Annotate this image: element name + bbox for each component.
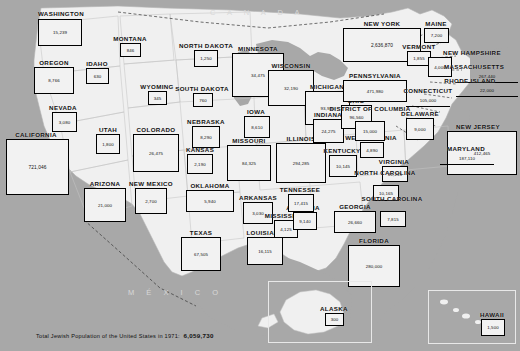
wisconsin-value: 32,190 bbox=[284, 86, 298, 91]
montana-value-box: 846 bbox=[120, 43, 141, 57]
california-label: CALIFORNIA bbox=[15, 131, 57, 138]
district-of-columbia-value-box: 15,000 bbox=[355, 121, 385, 141]
maryland-label: MARYLAND bbox=[447, 145, 485, 152]
west-virginia-value-box: 4,890 bbox=[360, 142, 384, 158]
louisiana-value: 16,115 bbox=[258, 249, 272, 254]
iowa-value: 8,610 bbox=[251, 125, 263, 130]
north-carolina-label-line1: NORTH CAROLINA bbox=[354, 170, 415, 177]
florida-label: FLORIDA bbox=[359, 237, 389, 244]
vermont-value: 1,855 bbox=[413, 56, 425, 61]
alabama-value: 9,140 bbox=[299, 219, 311, 224]
caption-prefix: Total Jewish Population of the United St… bbox=[36, 333, 180, 339]
jewish-population-map: C A N A D A M É X I C O WASHINGTON 15,23… bbox=[0, 0, 520, 351]
alaska-label: ALASKA bbox=[320, 305, 348, 312]
canada-label: C A N A D A bbox=[210, 8, 305, 17]
south-dakota-value: 760 bbox=[199, 98, 207, 103]
connecticut-label: CONNECTICUT bbox=[404, 87, 453, 94]
nebraska-label: NEBRASKA bbox=[187, 118, 225, 125]
georgia-value: 26,660 bbox=[348, 220, 362, 225]
colorado-value: 26,475 bbox=[149, 151, 163, 156]
south-carolina-value: 7,815 bbox=[387, 217, 399, 222]
arkansas-value: 3,030 bbox=[252, 211, 264, 216]
washington-value: 15,239 bbox=[53, 30, 67, 35]
mississippi-value: 4,125 bbox=[280, 227, 292, 232]
mexico-label: M É X I C O bbox=[128, 288, 223, 297]
tennessee-value-box: 17,415 bbox=[288, 194, 314, 212]
connecticut-value-box: 105,000 bbox=[406, 95, 450, 107]
district-of-columbia-label: DISTRICT OF COLUMBIA bbox=[330, 106, 411, 113]
alabama-value-box: 9,140 bbox=[293, 212, 317, 230]
south-carolina-label: SOUTH CAROLINA bbox=[362, 196, 423, 203]
virginia-label: VIRGINIA bbox=[379, 158, 409, 165]
missouri-value-box: 84,325 bbox=[227, 145, 271, 181]
new-mexico-label: NEW MEXICO bbox=[129, 180, 173, 187]
nebraska-value: 8,290 bbox=[200, 135, 212, 140]
massachusetts-label: MASSACHUSETTS bbox=[444, 63, 504, 70]
alaska-value: 300 bbox=[331, 317, 339, 322]
washington-label: WASHINGTON bbox=[38, 10, 84, 17]
idaho-value-box: 630 bbox=[86, 68, 109, 84]
florida-value: 280,000 bbox=[366, 264, 383, 269]
south-carolina-value-box: 7,815 bbox=[380, 211, 406, 227]
south-dakota-value-box: 760 bbox=[193, 93, 213, 107]
utah-value: 1,800 bbox=[102, 142, 114, 147]
arizona-value-box: 21,000 bbox=[84, 188, 126, 222]
indiana-value: 24,275 bbox=[321, 129, 335, 134]
missouri-label: MISSOURI bbox=[232, 137, 265, 144]
indiana-value-box: 24,275 bbox=[313, 119, 344, 143]
hawaii-label: HAWAII bbox=[480, 311, 504, 318]
alaska-value-box: 300 bbox=[325, 313, 344, 326]
montana-label: MONTANA bbox=[113, 35, 147, 42]
oregon-value-box: 8,766 bbox=[34, 67, 74, 94]
new-hampshire-label: NEW HAMPSHIRE bbox=[443, 49, 501, 56]
illinois-value: 294,285 bbox=[293, 161, 310, 166]
kansas-value-box: 2,190 bbox=[187, 154, 213, 174]
arizona-value: 21,000 bbox=[98, 203, 112, 208]
minnesota-label: MINNESOTA bbox=[238, 45, 278, 52]
oregon-value: 8,766 bbox=[48, 78, 60, 83]
delaware-value: 9,000 bbox=[414, 127, 426, 132]
tennessee-label: TENNESSEE bbox=[280, 186, 321, 193]
oklahoma-value: 5,940 bbox=[204, 199, 216, 204]
colorado-label: COLORADO bbox=[137, 126, 176, 133]
north-dakota-value-box: 1,250 bbox=[194, 50, 218, 67]
tennessee-value: 17,415 bbox=[294, 201, 308, 206]
montana-value: 846 bbox=[127, 48, 135, 53]
wisconsin-label: WISCONSIN bbox=[272, 62, 311, 69]
wyoming-label: WYOMING bbox=[140, 83, 173, 90]
maine-label: MAINE bbox=[425, 20, 447, 27]
georgia-label: GEORGIA bbox=[339, 203, 371, 210]
nevada-label: NEVADA bbox=[49, 104, 77, 111]
wyoming-value: 345 bbox=[154, 96, 162, 101]
maryland-value: 187,110 bbox=[459, 156, 475, 161]
iowa-value-box: 8,610 bbox=[244, 116, 270, 138]
vermont-label: VERMONT bbox=[402, 43, 435, 50]
caption-total: 6,059,730 bbox=[183, 332, 213, 339]
new-york-label: NEW YORK bbox=[364, 20, 401, 27]
oklahoma-label: OKLAHOMA bbox=[190, 182, 229, 189]
iowa-label: IOWA bbox=[247, 108, 265, 115]
nevada-value-box: 3,080 bbox=[52, 112, 77, 132]
connecticut-value: 105,000 bbox=[420, 98, 437, 103]
new-york-value: 2,636,870 bbox=[371, 43, 393, 48]
maine-value: 7,200 bbox=[431, 33, 443, 38]
texas-value: 67,505 bbox=[194, 252, 208, 257]
kansas-value: 2,190 bbox=[194, 162, 206, 167]
oregon-label: OREGON bbox=[39, 59, 69, 66]
kansas-label: KANSAS bbox=[186, 146, 214, 153]
california-value-box: 721,046 bbox=[6, 139, 69, 195]
hawaii-value: 1,500 bbox=[487, 325, 499, 330]
georgia-value-box: 26,660 bbox=[334, 211, 376, 233]
arizona-label: ARIZONA bbox=[90, 180, 121, 187]
north-dakota-value: 1,250 bbox=[200, 56, 212, 61]
total-population-caption: Total Jewish Population of the United St… bbox=[36, 332, 214, 339]
kentucky-label: KENTUCKY bbox=[323, 147, 360, 154]
nebraska-value-box: 8,290 bbox=[192, 126, 220, 148]
new-mexico-value-box: 2,700 bbox=[135, 188, 167, 214]
illinois-value-box: 294,285 bbox=[276, 143, 326, 183]
pennsylvania-value: 471,980 bbox=[367, 89, 384, 94]
utah-label: UTAH bbox=[99, 126, 117, 133]
nevada-value: 3,080 bbox=[59, 120, 71, 125]
new-jersey-label: NEW JERSEY bbox=[456, 123, 500, 130]
idaho-value: 630 bbox=[94, 74, 102, 79]
